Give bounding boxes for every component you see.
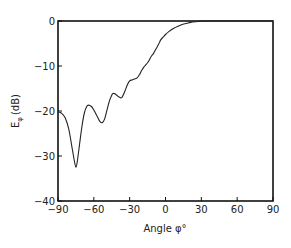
y-tick-label: −30 xyxy=(34,151,55,162)
y-axis-title-unit: (dB) xyxy=(10,94,21,115)
y-axis-title-sub: φ xyxy=(16,117,24,122)
x-axis-title: Angle φ° xyxy=(143,223,186,234)
radiation-pattern-chart: 0−10−20−30−40 −90−60−300306090 Angle φ° … xyxy=(0,0,291,248)
x-tick-label: −60 xyxy=(83,204,104,215)
x-tick-label: −30 xyxy=(119,204,140,215)
x-tick-label: −90 xyxy=(47,204,68,215)
svg-text:Eφ(dB): Eφ(dB) xyxy=(10,94,24,128)
x-tick-label: 30 xyxy=(195,204,208,215)
y-tick-label: −10 xyxy=(34,61,55,72)
plot-frame xyxy=(58,21,273,201)
plot-border xyxy=(58,21,273,201)
y-tick-label: −20 xyxy=(34,106,55,117)
x-tick-label: 0 xyxy=(162,204,168,215)
y-tick-label: 0 xyxy=(49,16,55,27)
x-tick-label: 60 xyxy=(231,204,244,215)
pattern-curve xyxy=(58,21,273,167)
x-axis-ticks: −90−60−300306090 xyxy=(47,197,279,215)
x-tick-label: 90 xyxy=(267,204,280,215)
y-axis-title: Eφ(dB) xyxy=(10,94,24,128)
